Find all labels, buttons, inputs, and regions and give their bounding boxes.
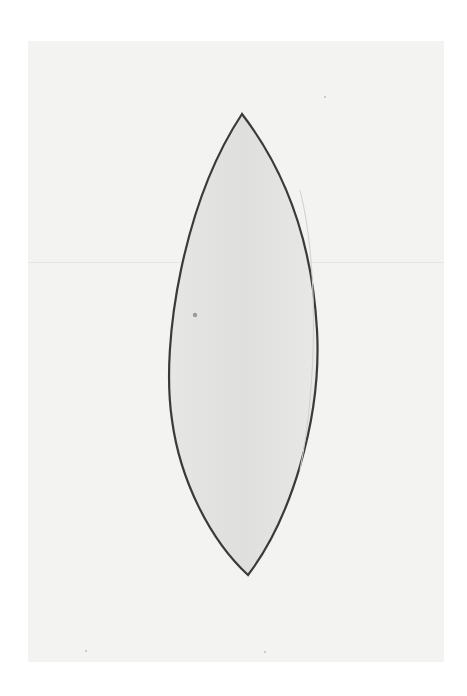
lens-shape-drawing xyxy=(0,0,467,696)
